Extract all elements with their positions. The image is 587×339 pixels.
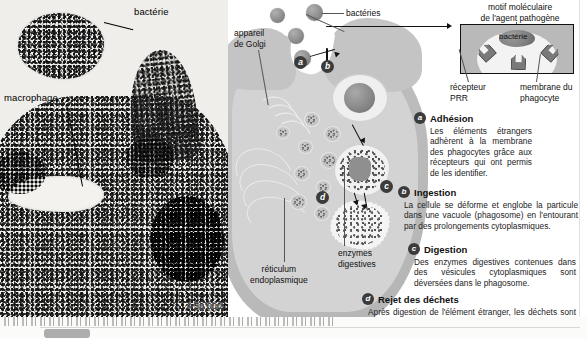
free-bacterium: [270, 8, 285, 23]
phagosome-vacuole: [332, 74, 388, 122]
receptor-label-line1: récepteur: [450, 82, 486, 92]
step-block-digestion: c Digestion Des enzymes digestives conte…: [408, 243, 576, 288]
leader-er: [284, 198, 285, 262]
step-block-ingestion: b Ingestion La cellule se déforme et eng…: [398, 186, 578, 231]
step-body-a: Les éléments étrangers adhèrent à la mem…: [430, 126, 532, 179]
step-title-a: Adhésion: [430, 113, 473, 124]
receptor-inset-box: bactérie: [460, 24, 574, 74]
electron-micrograph-panel: bactérie macrophage × 50 000: [0, 0, 228, 317]
schema-label-er: réticulum endoplasmique: [250, 264, 308, 285]
schema-label-golgi: appareil de Golgi: [234, 28, 266, 49]
diagram-marker-c: c: [380, 180, 393, 193]
lysosome-vesicle: [314, 206, 330, 221]
photo-label-macrophage: macrophage: [4, 92, 58, 103]
step-body-c: Des enzymes digestives contenues dans de…: [414, 257, 576, 289]
diagram-marker-d: d: [316, 191, 329, 204]
lysosome-vesicle: [304, 112, 320, 127]
micrograph-dense-granule-left: [0, 152, 46, 194]
er-label-line1: réticulum: [262, 264, 296, 274]
leader-line-bacterie: [104, 22, 133, 30]
membrane-label-line1: membrane du: [520, 82, 572, 92]
golgi-label-line2: de Golgi: [234, 39, 266, 49]
leader-bacteries-1: [322, 13, 344, 14]
photo-label-bacterie: bactérie: [134, 6, 169, 17]
step-body-d: Après digestion de l'élément étranger, l…: [368, 307, 576, 318]
arrow-to-inset: [326, 18, 460, 50]
micrograph-bacterium: [18, 13, 104, 79]
diagram-marker-a: a: [294, 56, 307, 69]
membrane-label-line2: phagocyte: [520, 93, 559, 103]
enzymes-label-line1: enzymes: [338, 248, 372, 258]
free-bacterium: [288, 28, 304, 44]
lysosome-vesicle: [324, 126, 341, 142]
leader-enzymes: [344, 166, 345, 246]
step-title-b: Ingestion: [414, 187, 456, 198]
caption-text-smear: [4, 317, 334, 326]
schematic-panel: a b c d bactéries appareil de Golgi réti…: [228, 0, 587, 317]
micrograph-dense-granule-mid: [126, 138, 174, 178]
step-block-rejet: d Rejet des déchets Après digestion de l…: [362, 293, 576, 317]
bottom-caption-strip: [0, 317, 587, 339]
diagram-marker-b: b: [321, 60, 334, 73]
step-marker-d: d: [362, 293, 374, 305]
step-marker-b: b: [398, 186, 410, 198]
inset-label-receptor: récepteur PRR: [450, 82, 486, 103]
er-label-line2: endoplasmique: [250, 275, 308, 285]
figure-root: bactérie macrophage × 50 000: [0, 0, 587, 339]
step-marker-c: c: [408, 243, 420, 255]
golgi-label-line1: appareil: [234, 28, 264, 38]
receptor-label-line2: PRR: [450, 93, 468, 103]
enzymes-label-line2: digestives: [338, 259, 376, 269]
caption-chip: [44, 329, 90, 338]
lysosome-vesicle: [276, 126, 290, 139]
schema-right-rule: [579, 0, 580, 317]
step-body-b: La cellule se déforme et englobe la part…: [404, 200, 578, 232]
lysosome-vesicle: [294, 166, 310, 181]
caption-rule: [40, 327, 580, 328]
arrow-b-to-c: [352, 118, 376, 148]
step-title-c: Digestion: [424, 244, 467, 255]
lysosome-vesicle: [298, 140, 313, 154]
inset-bacterium-label: bactérie: [499, 32, 527, 43]
step-marker-a: a: [414, 112, 426, 124]
schema-label-enzymes: enzymes digestives: [338, 248, 376, 269]
inset-title-line2: de l'agent pathogène: [480, 13, 559, 23]
step-block-adhesion: a Adhésion Les éléments étrangers adhère…: [414, 112, 532, 178]
schema-label-bacteries: bactéries: [346, 8, 381, 19]
step-title-d: Rejet des déchets: [378, 294, 459, 305]
degrading-bacterium: [349, 157, 371, 181]
engulfed-bacterium: [344, 83, 375, 113]
inset-title: motif moléculaire de l'agent pathogène: [464, 2, 576, 23]
inset-label-membrane: membrane du phagocyte: [520, 82, 572, 103]
micrograph-ingested-bacterium: [150, 196, 224, 282]
lysosome-vesicle: [290, 194, 307, 210]
magnification-label: × 50 000: [186, 301, 222, 311]
arrow-waste-out: [354, 192, 368, 208]
inset-title-line1: motif moléculaire: [488, 2, 552, 12]
